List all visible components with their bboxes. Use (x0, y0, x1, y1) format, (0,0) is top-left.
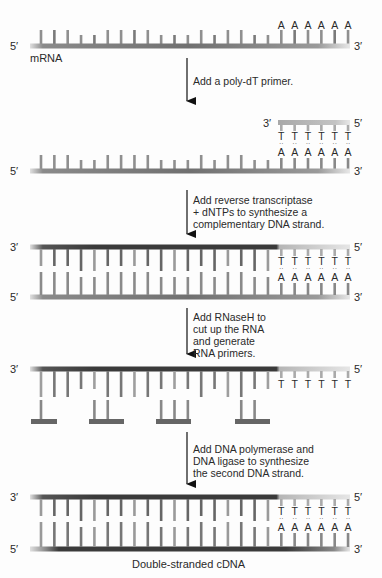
base-tick (40, 371, 43, 397)
base-tick (133, 371, 136, 397)
base-tick (173, 35, 176, 44)
base-tick (106, 30, 109, 44)
base-tick (333, 158, 336, 169)
paired-a-base: A (278, 146, 285, 158)
step2-text: Add reverse transcriptase + dNTPs to syn… (193, 194, 324, 230)
base-tick (93, 499, 96, 521)
stage2-5prime-label: 5′ (10, 165, 18, 177)
step3-text: Add RNaseH to cut up the RNA and generat… (193, 311, 266, 359)
base-tick (40, 400, 43, 419)
mrna-label: mRNA (30, 52, 62, 64)
base-tick (240, 272, 243, 295)
base-tick (267, 527, 270, 547)
base-tick (187, 249, 190, 271)
base-tick (227, 155, 230, 169)
base-tick (267, 160, 270, 169)
base-tick (66, 30, 69, 44)
base-tick (66, 249, 69, 266)
base-tick (200, 30, 203, 44)
base-tick (240, 400, 243, 419)
base-tick (53, 30, 56, 44)
cdna-first-strand-4 (30, 367, 350, 372)
base-tick (93, 35, 96, 44)
stage3-bottom-3prime: 3′ (354, 291, 362, 303)
base-tick (200, 371, 203, 397)
base-tick (253, 371, 256, 389)
base-tick (320, 283, 323, 295)
base-tick (320, 30, 323, 44)
step1-text: Add a poly-dT primer. (193, 75, 293, 87)
base-tick (253, 160, 256, 169)
primer-t-base: T (278, 378, 285, 390)
stage2-primer-5prime: 5′ (354, 117, 362, 129)
base-tick (40, 522, 43, 547)
base-tick (253, 277, 256, 295)
base-tick (187, 277, 190, 295)
mrna-strand-3 (30, 295, 350, 300)
base-tick (80, 160, 83, 169)
base-tick (227, 249, 230, 266)
mrna-strand-2 (30, 169, 350, 174)
base-tick (147, 499, 150, 516)
base-tick (347, 371, 350, 378)
base-tick (120, 371, 123, 397)
base-tick (173, 249, 176, 271)
base-tick (53, 371, 56, 397)
stage1-3prime-label: 3′ (354, 40, 362, 52)
base-tick (80, 277, 83, 295)
base-tick (187, 400, 190, 419)
poly-a-base: A (304, 19, 311, 31)
stage4-top-5prime: 5′ (354, 363, 362, 375)
base-tick (200, 155, 203, 169)
poly-dt-primer (278, 120, 350, 125)
paired-a-base: A (331, 271, 338, 283)
base-tick (133, 499, 136, 516)
base-tick (333, 371, 336, 378)
paired-a-base: A (304, 146, 311, 158)
base-tick (120, 30, 123, 44)
stage3-bottom-5prime: 5′ (10, 291, 18, 303)
stage2-3prime-label: 3′ (354, 165, 362, 177)
base-tick (200, 522, 203, 547)
paired-a-base: A (304, 521, 311, 533)
base-tick (320, 533, 323, 547)
base-tick (93, 277, 96, 295)
base-tick (66, 522, 69, 547)
base-tick (253, 400, 256, 419)
base-tick (213, 499, 216, 521)
base-tick (120, 249, 123, 266)
base-tick (106, 249, 109, 266)
paired-a-base: A (345, 521, 352, 533)
base-tick (280, 30, 283, 44)
base-tick (160, 35, 163, 44)
base-tick (240, 155, 243, 169)
stage5-bottom-5prime: 5′ (10, 543, 18, 555)
base-tick (280, 283, 283, 295)
base-tick (267, 371, 270, 389)
cdna-first-strand (30, 245, 350, 250)
base-tick (240, 249, 243, 266)
base-tick (227, 371, 230, 397)
base-tick (147, 249, 150, 266)
rna-primer-fragment (156, 419, 191, 424)
base-tick (80, 499, 83, 521)
paired-a-base: A (278, 521, 285, 533)
primer-t-base: T (345, 378, 352, 390)
base-tick (120, 272, 123, 295)
base-tick (93, 371, 96, 389)
base-tick (106, 400, 109, 419)
poly-a-base: A (331, 19, 338, 31)
primer-t-base: T (291, 378, 298, 390)
base-tick (227, 522, 230, 547)
base-tick (347, 30, 350, 44)
base-tick (320, 371, 323, 378)
base-tick (227, 272, 230, 295)
base-tick (40, 155, 43, 169)
base-tick (347, 283, 350, 295)
base-tick (40, 499, 43, 516)
base-tick (347, 533, 350, 547)
base-tick (240, 371, 243, 397)
base-tick (253, 527, 256, 547)
base-tick (160, 249, 163, 271)
cdna-second-strand (30, 547, 350, 552)
